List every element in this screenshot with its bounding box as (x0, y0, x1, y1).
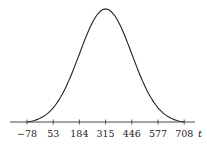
x-tick-label: 577 (149, 128, 167, 139)
x-axis-tick-labels: −7853184315446577708 (17, 128, 193, 139)
x-tick-label: 53 (47, 128, 59, 139)
normal-curve-chart: −7853184315446577708 t (0, 0, 207, 148)
x-tick-label: −78 (17, 128, 37, 139)
x-tick-label: 184 (70, 128, 88, 139)
x-axis-label: t (198, 128, 203, 139)
x-tick-label: 708 (175, 128, 193, 139)
x-tick-label: 315 (97, 128, 115, 139)
bell-curve (27, 9, 184, 122)
x-tick-label: 446 (123, 128, 141, 139)
